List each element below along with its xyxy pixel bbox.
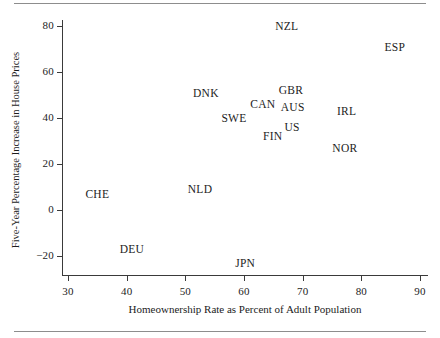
- y-axis-title: Five-Year Percentage Increase in House P…: [10, 15, 22, 285]
- data-point-label-jpn: JPN: [235, 257, 255, 269]
- data-point-label-nld: NLD: [188, 183, 213, 195]
- top-horizontal-rule: [14, 3, 426, 4]
- scatter-plot-area: NZLESPGBRDNKCANAUSIRLSWEUSFINNORNLDCHEDE…: [62, 20, 428, 276]
- bottom-horizontal-rule: [14, 331, 426, 332]
- x-axis-tick: [185, 276, 186, 281]
- x-axis-tick: [420, 276, 421, 281]
- data-point-label-can: CAN: [250, 98, 275, 110]
- data-point-label-irl: IRL: [337, 105, 356, 117]
- data-point-label-aus: AUS: [281, 101, 305, 113]
- y-axis-tick-label: 80: [24, 20, 54, 31]
- data-point-label-deu: DEU: [120, 243, 145, 255]
- y-axis-tick-label-group: −20020406080: [22, 0, 54, 338]
- x-axis-tick: [361, 276, 362, 281]
- figure-container: −20020406080 30405060708090 NZLESPGBRDNK…: [0, 0, 440, 338]
- data-point-label-che: CHE: [85, 188, 109, 200]
- data-point-label-esp: ESP: [384, 41, 405, 53]
- data-point-label-dnk: DNK: [193, 87, 219, 99]
- y-axis-tick-label: 60: [24, 66, 54, 77]
- y-axis-tick-label: −20: [24, 250, 54, 261]
- data-point-label-nzl: NZL: [275, 20, 298, 32]
- x-axis-tick: [127, 276, 128, 281]
- x-axis-tick-label: 30: [51, 285, 85, 297]
- data-point-label-nor: NOR: [332, 142, 357, 154]
- data-point-label-us: US: [284, 121, 299, 133]
- x-axis-tick-label: 40: [110, 285, 144, 297]
- x-axis-tick-label: 90: [403, 285, 437, 297]
- data-point-label-gbr: GBR: [279, 84, 304, 96]
- x-axis-tick: [68, 276, 69, 281]
- y-axis-tick-label: 20: [24, 158, 54, 169]
- x-axis-tick-label: 50: [168, 285, 202, 297]
- x-axis-tick-label: 70: [286, 285, 320, 297]
- x-axis-tick: [303, 276, 304, 281]
- x-axis-tick-label: 60: [227, 285, 261, 297]
- x-axis-title: Homeownership Rate as Percent of Adult P…: [62, 303, 428, 316]
- y-axis-tick-label: 40: [24, 112, 54, 123]
- data-point-label-fin: FIN: [263, 130, 282, 142]
- data-point-label-swe: SWE: [221, 112, 246, 124]
- x-axis-tick-label: 80: [344, 285, 378, 297]
- x-axis-tick: [244, 276, 245, 281]
- y-axis-tick-label: 0: [24, 204, 54, 215]
